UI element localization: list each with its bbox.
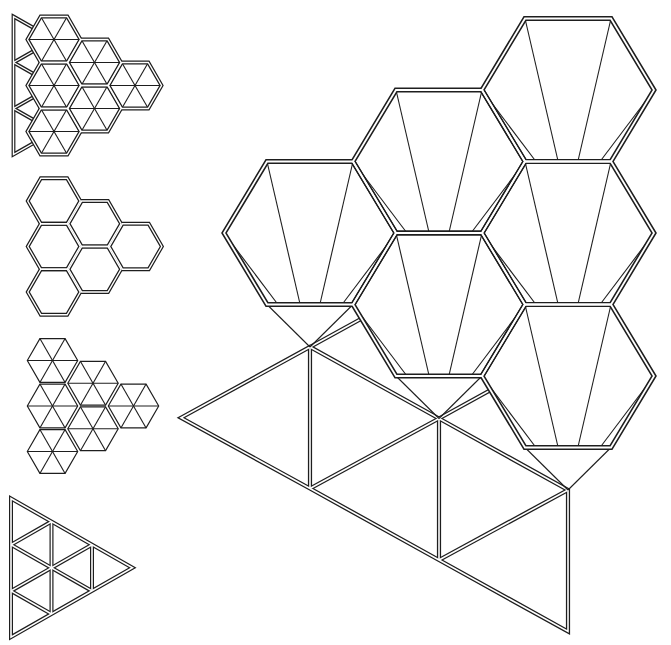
diagram-canvas	[0, 0, 671, 645]
